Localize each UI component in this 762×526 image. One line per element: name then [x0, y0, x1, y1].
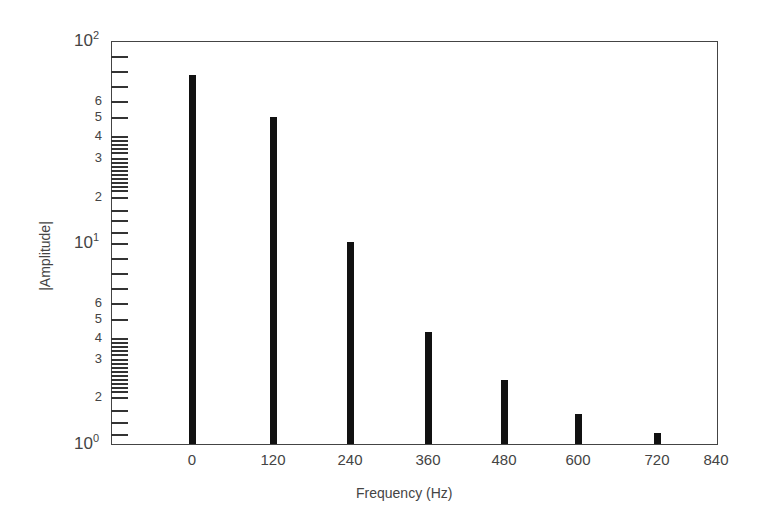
y-tick — [111, 56, 128, 58]
y-tick — [111, 422, 128, 424]
x-tick-label: 720 — [632, 451, 682, 468]
bar-240hz — [347, 242, 354, 444]
x-tick-label: 480 — [479, 451, 529, 468]
y-tick — [111, 220, 128, 222]
y-minor-label: 6 — [82, 93, 102, 108]
y-minor-label: 2 — [82, 389, 102, 404]
y-minor-label: 2 — [82, 189, 102, 204]
y-axis-title: |Amplitude| — [37, 216, 53, 296]
y-tick — [111, 148, 128, 150]
y-tick — [111, 71, 128, 73]
y-tick — [111, 397, 128, 399]
y-tick — [111, 288, 128, 290]
y-tick — [111, 383, 128, 385]
x-tick-label: 840 — [691, 451, 741, 468]
y-tick — [111, 410, 128, 412]
x-tick-label: 0 — [167, 451, 217, 468]
exponent: 2 — [93, 29, 99, 41]
y-tick — [111, 303, 128, 305]
y-tick — [111, 86, 128, 88]
x-tick-label: 240 — [325, 451, 375, 468]
y-tick — [111, 158, 128, 160]
bar-120hz — [270, 117, 277, 444]
y-minor-label: 3 — [82, 351, 102, 366]
y-minor-label: 5 — [82, 109, 102, 124]
y-tick — [111, 391, 128, 393]
bar-0hz — [189, 75, 196, 444]
y-tick — [111, 379, 128, 381]
y-tick — [111, 101, 128, 103]
y-major-label: 100 — [74, 432, 99, 454]
y-tick — [111, 350, 128, 352]
y-tick — [111, 359, 128, 361]
x-axis-title: Frequency (Hz) — [356, 485, 452, 501]
y-tick — [111, 371, 128, 373]
y-tick — [111, 190, 128, 192]
y-tick — [111, 338, 128, 340]
y-tick — [111, 174, 128, 176]
y-minor-label: 3 — [82, 150, 102, 165]
y-tick — [111, 140, 128, 142]
y-major-label: 102 — [74, 29, 99, 51]
y-tick — [111, 273, 128, 275]
bar-480hz — [501, 380, 508, 444]
y-tick — [111, 182, 128, 184]
y-minor-label: 5 — [82, 311, 102, 326]
bar-360hz — [425, 332, 432, 444]
y-minor-label: 4 — [82, 128, 102, 143]
y-tick — [111, 363, 128, 365]
y-tick — [111, 232, 128, 234]
plot-frame — [111, 41, 718, 445]
y-tick — [111, 136, 128, 138]
x-tick-label: 120 — [248, 451, 298, 468]
exponent: 1 — [93, 231, 99, 243]
x-tick-label: 360 — [403, 451, 453, 468]
y-tick — [111, 319, 128, 321]
y-tick — [111, 354, 128, 356]
exponent: 0 — [93, 432, 99, 444]
y-tick — [111, 162, 128, 164]
y-tick — [111, 387, 128, 389]
x-tick-label: 600 — [553, 451, 603, 468]
y-tick — [111, 152, 128, 154]
y-tick — [111, 166, 128, 168]
y-tick — [111, 258, 128, 260]
y-tick — [111, 342, 128, 344]
y-minor-label: 4 — [82, 330, 102, 345]
y-tick — [111, 117, 128, 119]
y-major-label: 101 — [74, 231, 99, 253]
y-tick — [111, 144, 128, 146]
bar-600hz — [575, 414, 582, 444]
y-tick — [111, 170, 128, 172]
y-tick — [111, 367, 128, 369]
bar-720hz — [654, 433, 661, 444]
y-tick — [111, 346, 128, 348]
y-tick-major — [111, 243, 128, 245]
y-tick — [111, 375, 128, 377]
y-tick — [111, 434, 128, 436]
y-tick — [111, 186, 128, 188]
y-tick — [111, 178, 128, 180]
y-tick — [111, 197, 128, 199]
amplitude-spectrum-chart: 2345623456100101102 01202403604806007208… — [0, 0, 762, 526]
y-tick — [111, 210, 128, 212]
y-minor-label: 6 — [82, 295, 102, 310]
